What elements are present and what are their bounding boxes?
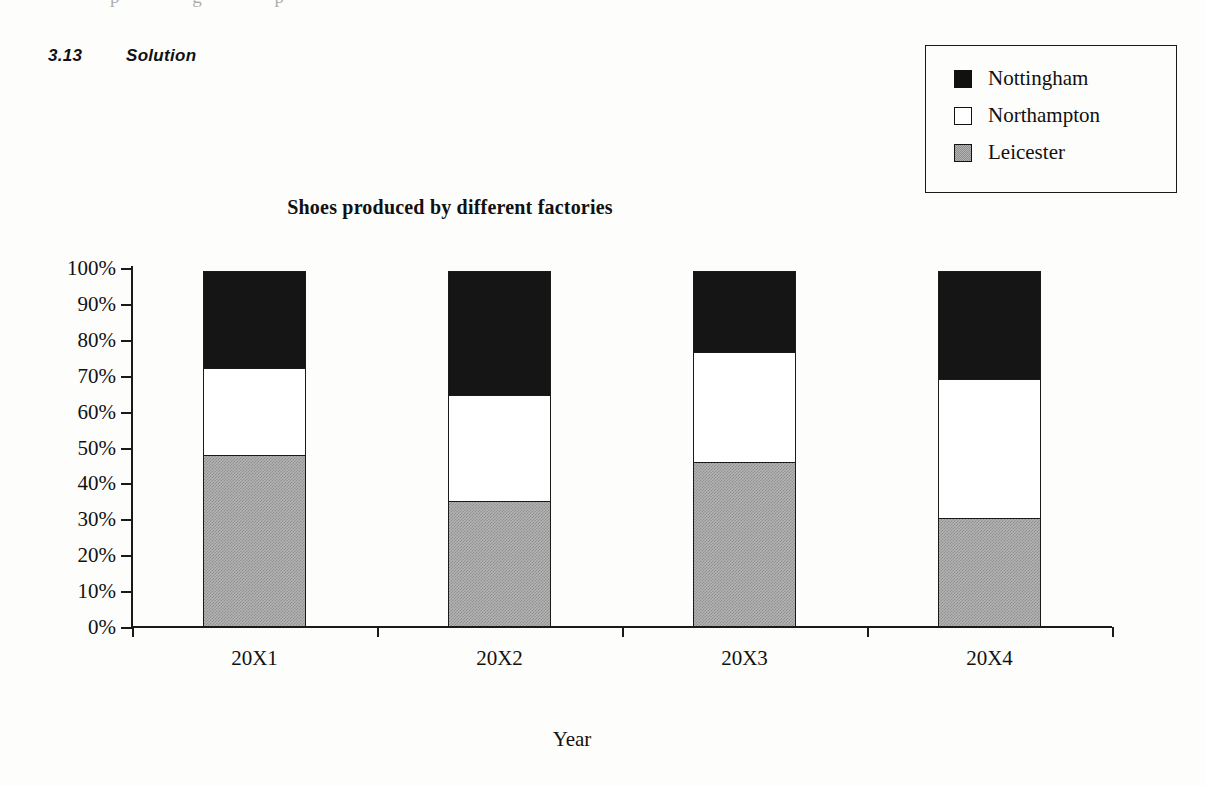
y-axis-tick-label: 10% [78,581,117,602]
x-axis-tick [1112,627,1114,637]
bar-stack[interactable] [203,271,306,627]
y-axis-tick [121,268,132,270]
bar-segment-leicester[interactable] [938,518,1041,627]
x-axis-category-label: 20X2 [400,646,600,671]
y-axis-tick-label: 90% [78,294,117,315]
chart-title: Shoes produced by different factories [0,196,900,219]
y-axis-tick [121,591,132,593]
plot-area: 100%90%80%70%60%50%40%30%20%10%0%20X120X… [132,268,1112,627]
x-axis-category-label: 20X4 [890,646,1090,671]
y-axis-tick [121,376,132,378]
y-axis-tick [121,627,132,629]
y-axis-tick-label: 0% [88,617,116,638]
stacked-bar-chart: Shoes produced by different factories 10… [0,0,1205,786]
y-axis-tick [121,340,132,342]
bar-stack[interactable] [448,271,551,627]
bar-segment-nottingham[interactable] [938,271,1041,380]
x-axis-category-label: 20X3 [645,646,845,671]
bar-segment-leicester[interactable] [448,501,551,627]
bar-segment-northampton[interactable] [938,379,1041,519]
bar-segment-nottingham[interactable] [448,271,551,397]
y-axis-tick-label: 20% [78,545,117,566]
y-axis-tick [121,412,132,414]
y-axis-tick-label: 40% [78,473,117,494]
bar-segment-northampton[interactable] [448,395,551,503]
bar-stack[interactable] [938,271,1041,627]
x-axis-tick [132,627,134,637]
bar-stack[interactable] [693,271,796,627]
bar-segment-northampton[interactable] [203,368,306,456]
bar-segment-nottingham[interactable] [203,271,306,370]
y-axis-tick-label: 50% [78,438,117,459]
bar-segment-leicester[interactable] [693,462,796,627]
x-axis-category-label: 20X1 [155,646,355,671]
x-axis-title: Year [132,727,1012,752]
x-axis-tick [377,627,379,637]
y-axis-tick-label: 80% [78,330,117,351]
y-axis-tick [121,448,132,450]
bar-segment-leicester[interactable] [203,455,306,627]
y-axis-tick [121,519,132,521]
bar-segment-northampton[interactable] [693,352,796,463]
y-axis-tick [121,304,132,306]
y-axis-tick [121,483,132,485]
y-axis-tick-label: 100% [67,258,116,279]
y-axis-tick-label: 70% [78,366,117,387]
y-axis-tick-label: 60% [78,402,117,423]
x-axis-tick [622,627,624,637]
x-axis-tick [867,627,869,637]
bar-segment-nottingham[interactable] [693,271,796,354]
y-axis-tick-label: 30% [78,509,117,530]
y-axis-tick [121,555,132,557]
